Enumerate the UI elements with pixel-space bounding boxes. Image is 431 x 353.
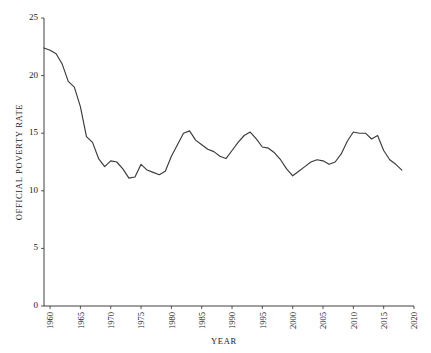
y-tick-label: 0 xyxy=(34,300,39,310)
x-tick-label: 2015 xyxy=(379,312,389,329)
x-tick-label: 2020 xyxy=(409,312,419,329)
y-tick-label: 25 xyxy=(29,12,39,22)
x-tick-label: 1975 xyxy=(136,312,146,329)
x-axis-title: YEAR xyxy=(211,336,237,346)
y-tick-labels: 0510152025 xyxy=(29,12,39,310)
x-tick-label: 2010 xyxy=(349,312,359,329)
y-axis-title: OFFICIAL POVERTY RATE xyxy=(14,104,24,221)
y-axis-group: 0510152025 xyxy=(29,12,44,310)
y-tick-label: 20 xyxy=(29,70,39,80)
x-tick-label: 1960 xyxy=(45,312,55,329)
x-axis-group: 1960196519701975198019851990199520002005… xyxy=(44,306,419,329)
x-tick-labels: 1960196519701975198019851990199520002005… xyxy=(45,312,419,329)
poverty-rate-line-chart: 0510152025 19601965197019751980198519901… xyxy=(0,0,431,353)
y-tick-label: 10 xyxy=(29,185,39,195)
chart-canvas: 0510152025 19601965197019751980198519901… xyxy=(0,0,431,353)
x-tick-label: 1970 xyxy=(106,312,116,329)
y-tick-label: 5 xyxy=(34,242,39,252)
poverty-rate-series-line xyxy=(44,48,402,178)
x-tick-label: 1990 xyxy=(227,312,237,329)
x-tick-label: 1995 xyxy=(258,312,268,329)
x-tick-label: 1980 xyxy=(167,312,177,329)
x-tick-label: 2000 xyxy=(288,312,298,329)
x-tick-marks xyxy=(50,306,414,309)
y-tick-label: 15 xyxy=(29,127,39,137)
x-tick-label: 1965 xyxy=(76,312,86,329)
x-tick-label: 1985 xyxy=(197,312,207,329)
x-tick-label: 2005 xyxy=(318,312,328,329)
